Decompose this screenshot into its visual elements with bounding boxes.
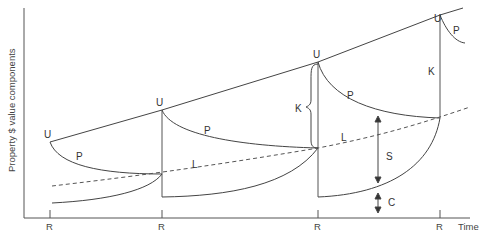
u-label-3: U bbox=[313, 49, 320, 60]
x-tick-label-2: R bbox=[158, 221, 165, 232]
p-label-2: P bbox=[204, 125, 211, 136]
x-tick-label-3: R bbox=[314, 221, 321, 232]
p-curves bbox=[50, 15, 465, 174]
x-tick-label-4: R bbox=[436, 221, 443, 232]
y-axis-label: Property $ value components bbox=[6, 48, 17, 172]
x-ticks bbox=[50, 210, 440, 218]
s-arrow bbox=[375, 116, 381, 183]
u-label-4: U bbox=[434, 13, 441, 24]
k-brace bbox=[306, 64, 318, 148]
p-label-4: P bbox=[453, 25, 460, 36]
p-label-1: P bbox=[76, 151, 83, 162]
u-label-2: U bbox=[156, 97, 163, 108]
property-value-diagram: U U U U P P P P K K L L S C R R R R Time… bbox=[0, 0, 486, 243]
l-label-2: L bbox=[341, 132, 347, 143]
x-tick-label-1: R bbox=[46, 221, 53, 232]
l-dashed-line bbox=[52, 107, 470, 186]
k-label-2: K bbox=[428, 66, 435, 77]
u-label-1: U bbox=[44, 129, 51, 140]
c-arrow bbox=[375, 193, 381, 213]
l-label-1: L bbox=[192, 159, 198, 170]
p-label-3: P bbox=[347, 90, 354, 101]
structure-curves bbox=[52, 118, 440, 203]
u-line bbox=[50, 8, 463, 142]
c-label: C bbox=[388, 197, 395, 208]
s-label: S bbox=[386, 151, 393, 162]
x-axis-label: Time bbox=[458, 221, 479, 232]
k-label-1: K bbox=[295, 103, 302, 114]
